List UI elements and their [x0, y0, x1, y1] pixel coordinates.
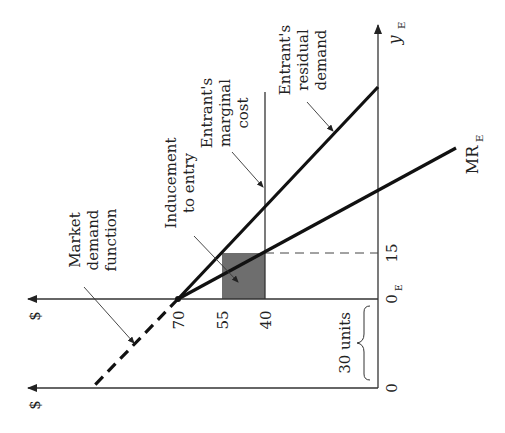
market-demand-line: [92, 299, 178, 388]
svg-text:Entrant's: Entrant's: [276, 25, 294, 95]
offset-brace-icon: [357, 306, 370, 380]
svg-text:demand: demand: [312, 29, 330, 90]
svg-text:E: E: [394, 284, 404, 291]
svg-text:y: y: [385, 35, 404, 46]
price-axis-bottom-label: $: [26, 400, 44, 410]
marginal-cost-label: Entrant's marginal cost: [198, 78, 252, 148]
svg-text:Inducement: Inducement: [162, 138, 180, 229]
kink-point: [175, 296, 181, 302]
market-demand-pointer: [84, 287, 134, 343]
residual-demand-label: Entrant's residual demand: [276, 25, 330, 95]
svg-text:cost: cost: [234, 97, 252, 128]
residual-demand-pointer: [307, 102, 333, 131]
tick-price-55: 55: [214, 310, 232, 329]
svg-text:MR: MR: [463, 145, 482, 174]
svg-text:to entry: to entry: [180, 152, 198, 213]
market-demand-label: Market demand function: [66, 208, 120, 271]
svg-text:demand: demand: [84, 209, 102, 270]
svg-text:function: function: [102, 208, 120, 271]
offset-label: 30 units: [336, 312, 354, 374]
tick-price-70: 70: [170, 310, 188, 329]
svg-text:Entrant's: Entrant's: [198, 78, 216, 148]
svg-text:marginal: marginal: [216, 79, 234, 147]
marginal-revenue-line: [178, 148, 456, 299]
tick-qty-0: 0: [383, 383, 401, 393]
svg-text:residual: residual: [294, 29, 312, 91]
quantity-axis-label: y E: [385, 22, 407, 46]
entry-diagram: $ $ y E 70 55 40 0 0 E 15 Market demand …: [0, 0, 505, 433]
mr-label: MR E: [463, 135, 485, 175]
tick-price-40: 40: [257, 310, 275, 329]
svg-text:E: E: [396, 22, 407, 29]
inducement-label: Inducement to entry: [162, 138, 198, 229]
tick-qty-0E: 0 E: [383, 284, 404, 303]
svg-text:Market: Market: [66, 212, 84, 267]
marginal-cost-pointer: [232, 152, 263, 187]
svg-text:E: E: [474, 135, 485, 142]
svg-text:0: 0: [383, 294, 401, 304]
tick-qty-15: 15: [383, 243, 401, 262]
inducement-area: [222, 253, 265, 299]
price-axis-top-label: $: [26, 311, 44, 321]
